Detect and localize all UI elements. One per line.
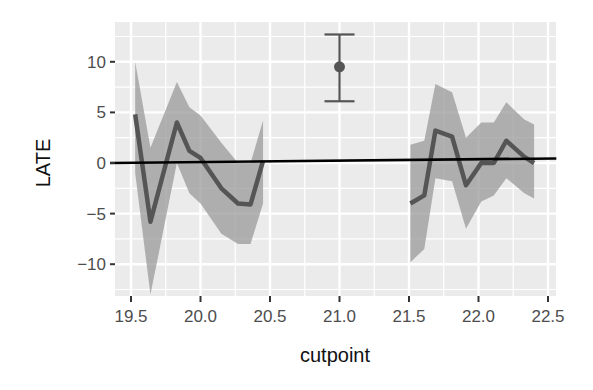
x-tick-label: 22.0 bbox=[462, 307, 495, 326]
y-axis-title: LATE bbox=[32, 139, 54, 188]
x-tick-label: 22.5 bbox=[531, 307, 564, 326]
y-tick-label: 0 bbox=[97, 154, 106, 173]
y-tick-label: 5 bbox=[97, 103, 106, 122]
x-axis: 19.520.020.521.021.522.022.5 bbox=[114, 296, 564, 326]
x-tick-label: 21.5 bbox=[392, 307, 425, 326]
chart: 1050−5−10 19.520.020.521.021.522.022.5 c… bbox=[0, 0, 593, 390]
point-estimate-marker bbox=[334, 61, 345, 72]
x-axis-title: cutpoint bbox=[300, 344, 370, 366]
x-tick-label: 21.0 bbox=[323, 307, 356, 326]
x-tick-label: 20.0 bbox=[184, 307, 217, 326]
x-tick-label: 19.5 bbox=[114, 307, 147, 326]
y-tick-label: 10 bbox=[87, 53, 106, 72]
y-tick-label: −10 bbox=[77, 255, 106, 274]
y-axis: 1050−5−10 bbox=[77, 53, 115, 274]
x-tick-label: 20.5 bbox=[253, 307, 286, 326]
y-tick-label: −5 bbox=[87, 205, 106, 224]
